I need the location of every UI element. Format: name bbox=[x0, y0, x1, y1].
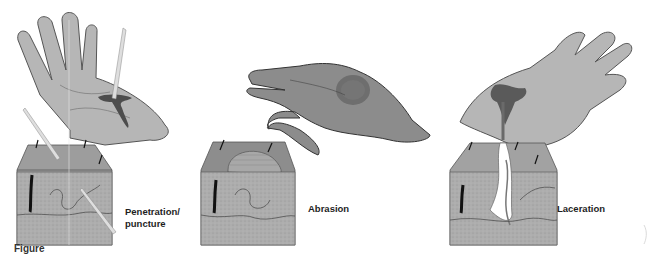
puncture-label-line1: Penetration/ bbox=[125, 206, 180, 218]
laceration-skin-block bbox=[450, 142, 557, 245]
abrasion-skin-block bbox=[201, 140, 295, 245]
abrasion-hand bbox=[247, 64, 430, 155]
puncture-label-line2: puncture bbox=[125, 218, 180, 230]
puncture-hand bbox=[18, 13, 169, 146]
abrasion-label: Abrasion bbox=[308, 203, 349, 215]
laceration-hand bbox=[460, 32, 632, 148]
figure-caption: Figure bbox=[14, 243, 45, 254]
puncture-label: Penetration/ puncture bbox=[125, 206, 180, 230]
laceration-label: Laceration bbox=[557, 203, 605, 215]
